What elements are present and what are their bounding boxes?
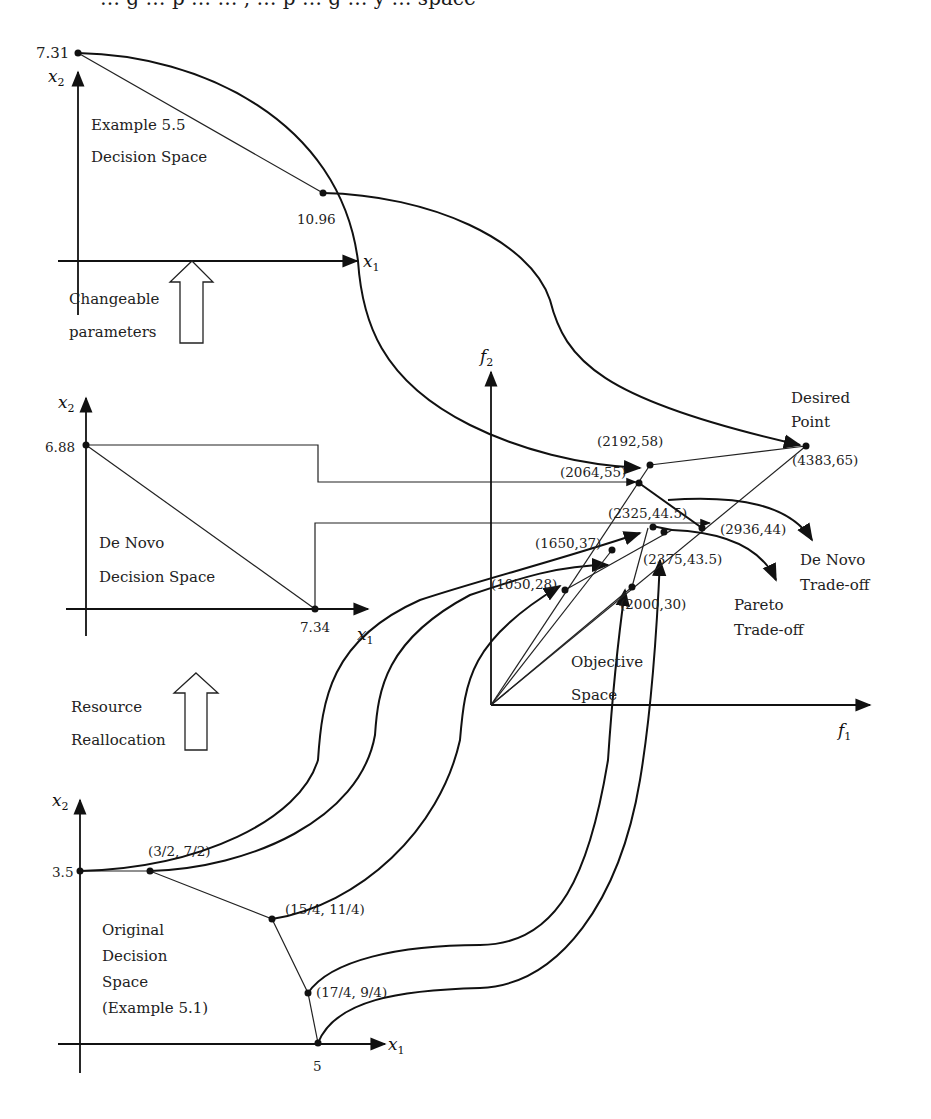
denovo-tradeoff-label-2: Trade-off bbox=[800, 576, 871, 594]
point-2375-43-5 bbox=[661, 529, 668, 536]
example55-point-y bbox=[75, 50, 82, 57]
original-title-2: Decision bbox=[102, 947, 168, 965]
objective-panel: f2 f1 (2192,58) (2064,55) (4383,65) (232… bbox=[478, 346, 871, 743]
point-4383-65 bbox=[803, 443, 810, 450]
resource-label-2: Reallocation bbox=[71, 731, 166, 749]
label-2325-44-5: (2325,44.5) bbox=[608, 505, 687, 521]
objective-title-1: Objective bbox=[571, 653, 643, 671]
example55-x-label: x1 bbox=[363, 251, 380, 274]
hollow-up-arrow-icon bbox=[174, 673, 218, 750]
resource-reallocation: Resource Reallocation bbox=[71, 673, 218, 750]
denovo-tradeoff-label-1: De Novo bbox=[800, 551, 865, 569]
pareto-tradeoff-label-1: Pareto bbox=[734, 596, 783, 614]
point-2192-58 bbox=[647, 462, 654, 469]
original-y-intercept: 3.5 bbox=[52, 864, 73, 880]
point-2064-55 bbox=[636, 480, 643, 487]
point-2000-30 bbox=[629, 584, 636, 591]
denovo-y-intercept: 6.88 bbox=[45, 439, 75, 455]
example55-y-label: x2 bbox=[48, 66, 65, 89]
denovo-y-label: x2 bbox=[58, 392, 75, 415]
original-panel: x2 3.5 5 x1 (3/2, 7/2) (15/4, 11/4) (17/… bbox=[52, 533, 660, 1074]
map-curve-c bbox=[308, 590, 625, 993]
pareto-tradeoff-label-2: Trade-off bbox=[734, 621, 805, 639]
label-2936-44: (2936,44) bbox=[720, 521, 786, 537]
example55-panel: 7.31 x2 x1 Example 5.5 Decision Space 10… bbox=[36, 44, 800, 468]
hollow-up-arrow-icon bbox=[170, 261, 213, 343]
changeable-parameters: Changeable parameters bbox=[69, 261, 213, 343]
label-1650-37: (1650,37) bbox=[535, 535, 601, 551]
label-1050-28: (1050,28) bbox=[491, 576, 557, 592]
desired-point-label-2: Point bbox=[791, 413, 830, 431]
denovo-x-intercept: 7.34 bbox=[300, 619, 330, 635]
original-x-label: x1 bbox=[388, 1034, 405, 1057]
original-title-4: (Example 5.1) bbox=[102, 999, 208, 1017]
point-2936-44 bbox=[699, 525, 706, 532]
original-x-intercept: 5 bbox=[313, 1058, 322, 1074]
label-2000-30: (2000,30) bbox=[620, 596, 686, 612]
desired-point-label-1: Desired bbox=[791, 389, 850, 407]
example55-title-2: Decision Space bbox=[91, 148, 207, 166]
point-1050-28 bbox=[562, 587, 569, 594]
original-y-label: x2 bbox=[52, 790, 69, 813]
changeable-label-1: Changeable bbox=[69, 290, 160, 308]
denovo-title-1: De Novo bbox=[99, 534, 164, 552]
example55-x-point-label: 10.96 bbox=[297, 211, 336, 227]
changeable-label-2: parameters bbox=[69, 323, 157, 341]
resource-label-1: Resource bbox=[71, 698, 142, 716]
original-title-3: Space bbox=[102, 973, 148, 991]
objective-f2-label: f2 bbox=[478, 346, 493, 369]
line-2192-to-desired bbox=[650, 446, 806, 465]
de-novo-diagram: 7.31 x2 x1 Example 5.5 Decision Space 10… bbox=[0, 0, 931, 1119]
point-2325-44-5 bbox=[650, 524, 657, 531]
label-2064-55: (2064,55) bbox=[560, 464, 626, 480]
denovo-point-x bbox=[312, 606, 319, 613]
label-2375-43-5: (2375,43.5) bbox=[643, 551, 722, 567]
map-curve-a bbox=[150, 565, 608, 871]
original-title-1: Original bbox=[102, 921, 164, 939]
example55-y-intercept: 7.31 bbox=[36, 44, 69, 62]
original-point-label-c: (17/4, 9/4) bbox=[316, 984, 387, 1000]
denovo-point-y bbox=[83, 442, 90, 449]
denovo-upper-connector bbox=[86, 445, 636, 482]
objective-f1-label: f1 bbox=[836, 720, 851, 743]
label-2192-58: (2192,58) bbox=[597, 433, 663, 449]
denovo-title-2: Decision Space bbox=[99, 568, 215, 586]
point-1650-37 bbox=[609, 547, 616, 554]
example55-to-desired-curve bbox=[323, 193, 800, 445]
example55-title-1: Example 5.5 bbox=[91, 116, 185, 134]
label-4383-65: (4383,65) bbox=[792, 452, 858, 468]
objective-title-2: Space bbox=[571, 686, 617, 704]
map-curve-b bbox=[272, 586, 560, 919]
